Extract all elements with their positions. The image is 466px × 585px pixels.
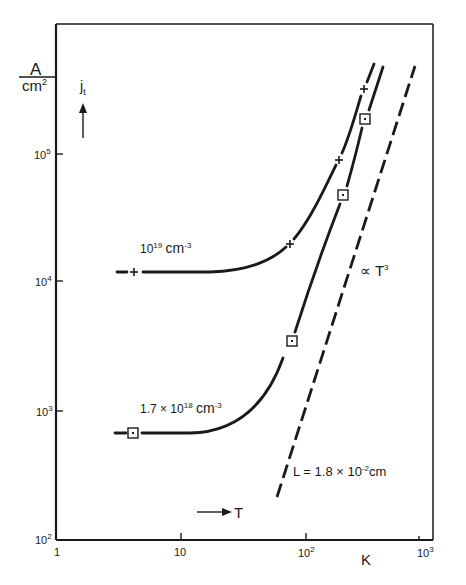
x-tick-label-1e3: 103 [417, 545, 434, 559]
y-tick-label-1e5: 105 [34, 147, 51, 161]
annot-unit: cm [196, 400, 215, 416]
chart-plot [0, 0, 466, 585]
x-variable-label: T [234, 504, 243, 521]
tick-exp: 5 [46, 147, 50, 156]
annot-exp: -2 [362, 464, 369, 473]
tick-exp: 2 [310, 545, 314, 554]
annot-unit: cm [166, 240, 185, 256]
tick-base: 10 [34, 149, 46, 161]
annot-unit: cm [369, 464, 386, 479]
series-label-1e19: 1019 cm-3 [140, 240, 191, 256]
x-tick-label-10: 10 [174, 546, 186, 558]
y-tick-label-1e4: 104 [35, 274, 52, 288]
tick-base: 10 [298, 547, 310, 559]
y-unit-den-exp: 2 [42, 77, 47, 87]
tick-base: 10 [36, 406, 48, 418]
plot-frame [56, 24, 433, 540]
y-tick-label-1e3: 103 [36, 404, 53, 418]
proportional-t3-label: ∝ T3 [360, 262, 389, 280]
annot-unit-exp: -3 [184, 241, 191, 250]
annot-exp: 19 [153, 241, 162, 250]
y-unit-den-text: cm [22, 77, 42, 94]
annot-base: 1.7 × 10 [140, 402, 184, 416]
series-label-1.7e18: 1.7 × 1018 cm-3 [140, 400, 222, 416]
tick-exp: 4 [47, 274, 51, 283]
tick-base: 10 [35, 276, 47, 288]
annot-base: 10 [140, 242, 153, 256]
y-direction-arrow-icon [79, 103, 87, 138]
y-var-sub: t [83, 87, 86, 97]
annot-base: L = 1.8 × 10 [293, 464, 362, 479]
annot-base: ∝ T [360, 262, 384, 279]
length-label: L = 1.8 × 10-2cm [293, 464, 386, 479]
y-variable-label: jt [80, 78, 86, 97]
annot-exp: 3 [384, 263, 388, 272]
annot-exp: 18 [184, 401, 193, 410]
series-1.7e18-markers [128, 114, 370, 438]
tick-base: 1 [54, 546, 60, 558]
tick-base: 10 [417, 547, 429, 559]
y-tick-label-1e2: 102 [35, 532, 52, 546]
tick-exp: 3 [429, 545, 433, 554]
tick-exp: 3 [48, 404, 52, 413]
x-tick-label-1e2: 102 [298, 545, 315, 559]
tick-base: 10 [174, 546, 186, 558]
series-t3-dashed [277, 66, 415, 497]
annot-unit-exp: -3 [215, 401, 222, 410]
x-direction-arrow-icon [197, 508, 232, 516]
x-tick-label-1: 1 [54, 546, 60, 558]
y-unit-denominator: cm2 [22, 77, 47, 94]
x-unit-label: K [361, 551, 371, 568]
tick-exp: 2 [47, 532, 51, 541]
tick-base: 10 [35, 534, 47, 546]
